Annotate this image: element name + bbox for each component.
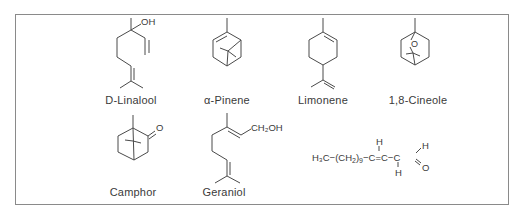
formula-chain: −C=C−C — [363, 152, 400, 163]
pinene-structure — [213, 18, 241, 66]
linalool-oh-label: OH — [141, 17, 155, 27]
aldehyde-h-ald: H — [422, 141, 429, 151]
label-limonene: Limonene — [298, 94, 348, 106]
aldehyde-formula: H₃C−(CH2)9−C=C−C — [312, 153, 400, 164]
aldehyde-h-top: H — [376, 137, 383, 147]
cineole-o-label: O — [411, 40, 418, 49]
limonene-structure — [309, 18, 337, 89]
camphor-o-label: O — [156, 123, 163, 133]
formula-h3c-ch: H₃C−(CH — [312, 152, 352, 163]
label-pinene: α-Pinene — [204, 94, 250, 106]
linalool-structure — [117, 18, 149, 88]
label-cineole: 1,8-Cineole — [389, 94, 447, 106]
aldehyde-o-ald: O — [422, 163, 429, 173]
geraniol-structure — [212, 113, 251, 183]
camphor-structure — [118, 115, 156, 160]
label-geraniol: Geraniol — [202, 186, 245, 198]
aldehyde-h-bottom: H — [395, 168, 402, 178]
geraniol-ch2oh-label: CH₂OH — [251, 123, 283, 133]
label-camphor: Camphor — [110, 186, 157, 198]
structures-drawing — [0, 0, 524, 218]
label-linalool: D-Linalool — [105, 94, 157, 106]
